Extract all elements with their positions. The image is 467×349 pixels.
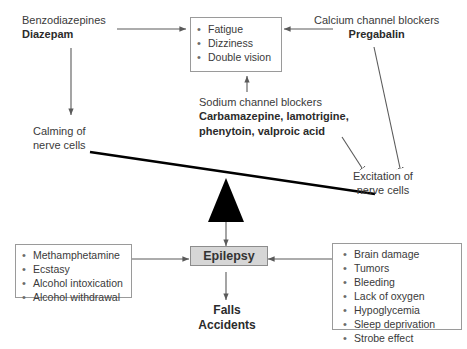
calming-of-nerve-cells-label: Calming of nerve cells	[33, 124, 86, 153]
arrow-sodium-blockers-to-excitation	[342, 137, 362, 168]
list-item: •Bleeding	[341, 276, 457, 290]
cause-text: Ecstasy	[33, 263, 70, 275]
cause-text: Strobe effect	[354, 332, 413, 344]
bullet-icon: •	[22, 262, 26, 277]
cause-text: Brain damage	[354, 248, 419, 260]
cause-text: Methamphetamine	[33, 249, 120, 261]
excitation-of-nerve-cells-label: Excitation of nerve cells	[353, 169, 413, 198]
side-effects-box: •Fatigue •Dizziness •Double vision	[190, 17, 282, 72]
list-item: •Fatigue	[195, 23, 277, 37]
cause-text: Tumors	[354, 262, 389, 274]
list-item: •Tumors	[341, 262, 457, 276]
calming-line1: Calming of	[33, 124, 86, 138]
excitation-line1: Excitation of	[353, 169, 413, 183]
bullet-icon: •	[22, 276, 26, 291]
left-causes-list: •Methamphetamine •Ecstasy •Alcohol intox…	[20, 249, 127, 305]
side-effect-text: Double vision	[208, 51, 271, 63]
side-effect-text: Dizziness	[208, 37, 253, 49]
arrow-pregabalin-to-excitation	[374, 47, 400, 168]
left-causes-box: •Methamphetamine •Ecstasy •Alcohol intox…	[15, 244, 132, 298]
epilepsy-node: Epilepsy	[190, 246, 268, 266]
benzodiazepines-line2: Diazepam	[22, 27, 106, 41]
bullet-icon: •	[343, 275, 347, 290]
benzodiazepines-line1: Benzodiazepines	[22, 13, 106, 27]
list-item: •Alcohol intoxication	[20, 277, 127, 291]
excitation-line2: nerve cells	[353, 183, 413, 197]
epilepsy-label: Epilepsy	[203, 249, 254, 263]
cause-text: Alcohol withdrawal	[33, 291, 120, 303]
cause-text: Sleep deprivation	[354, 318, 435, 330]
list-item: •Dizziness	[195, 37, 277, 51]
sodium-blockers-line3: phenytoin, valproic acid	[199, 124, 349, 138]
falls-line: Falls	[186, 303, 268, 318]
cause-text: Bleeding	[354, 276, 395, 288]
list-item: •Sleep deprivation	[341, 318, 457, 332]
bullet-icon: •	[343, 317, 347, 332]
balance-beam	[90, 152, 375, 194]
list-item: •Brain damage	[341, 248, 457, 262]
sodium-blockers-line2: Carbamazepine, lamotrigine,	[199, 109, 349, 123]
falls-accidents-label: Falls Accidents	[186, 303, 268, 334]
bullet-icon: •	[343, 303, 347, 318]
fulcrum-triangle	[208, 178, 244, 222]
right-causes-box: •Brain damage •Tumors •Bleeding •Lack of…	[332, 243, 462, 330]
list-item: •Hypoglycemia	[341, 304, 457, 318]
calcium-channel-blockers-label: Calcium channel blockers Pregabalin	[314, 13, 439, 42]
sodium-channel-blockers-label: Sodium channel blockers Carbamazepine, l…	[199, 95, 349, 138]
right-causes-list: •Brain damage •Tumors •Bleeding •Lack of…	[341, 248, 457, 346]
bullet-icon: •	[197, 50, 201, 65]
bullet-icon: •	[343, 331, 347, 346]
list-item: •Alcohol withdrawal	[20, 291, 127, 305]
side-effect-text: Fatigue	[208, 23, 243, 35]
bullet-icon: •	[343, 261, 347, 276]
calming-line2: nerve cells	[33, 138, 86, 152]
cause-text: Hypoglycemia	[354, 304, 420, 316]
sodium-blockers-line1: Sodium channel blockers	[199, 95, 349, 109]
accidents-line: Accidents	[186, 318, 268, 333]
list-item: •Methamphetamine	[20, 249, 127, 263]
list-item: •Double vision	[195, 51, 277, 65]
bullet-icon: •	[22, 248, 26, 263]
list-item: •Lack of oxygen	[341, 290, 457, 304]
list-item: •Strobe effect	[341, 332, 457, 346]
bullet-icon: •	[343, 289, 347, 304]
bullet-icon: •	[22, 290, 26, 305]
calcium-blockers-line2: Pregabalin	[314, 27, 439, 41]
bullet-icon: •	[197, 22, 201, 37]
list-item: •Ecstasy	[20, 263, 127, 277]
bullet-icon: •	[197, 36, 201, 51]
cause-text: Alcohol intoxication	[33, 277, 123, 289]
cause-text: Lack of oxygen	[354, 290, 425, 302]
bullet-icon: •	[343, 247, 347, 262]
epilepsy-diagram: Benzodiazepines Diazepam Calcium channel…	[0, 0, 467, 349]
side-effects-list: •Fatigue •Dizziness •Double vision	[195, 23, 277, 65]
benzodiazepines-label: Benzodiazepines Diazepam	[22, 13, 106, 42]
calcium-blockers-line1: Calcium channel blockers	[314, 13, 439, 27]
